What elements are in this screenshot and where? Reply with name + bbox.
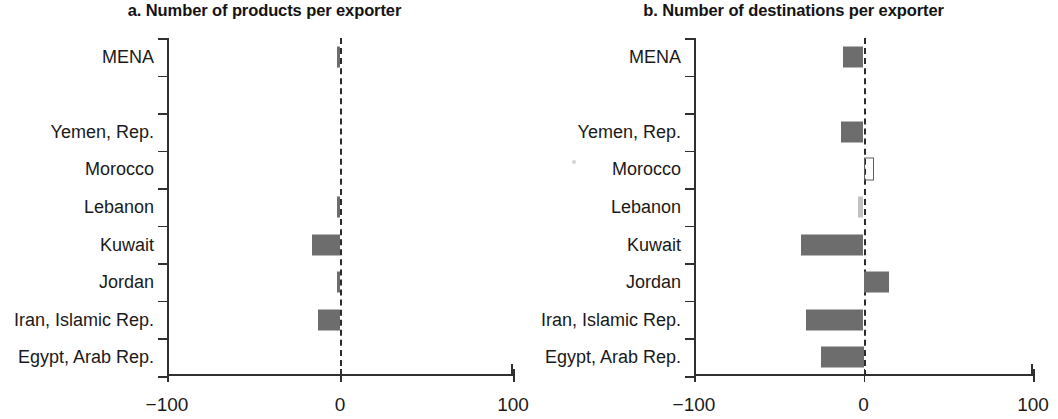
y-axis-tick (685, 38, 694, 40)
y-axis-tick (685, 376, 694, 378)
x-axis-tick (864, 369, 866, 382)
figure-two-panel-bar-charts: a. Number of products per exporter −1000… (0, 0, 1058, 419)
category-label: Morocco (85, 159, 154, 180)
y-axis-tick (158, 38, 167, 40)
x-axis-tick-label: −100 (146, 394, 189, 416)
y-axis-tick (685, 76, 694, 78)
bar (337, 272, 340, 293)
category-label: Egypt, Arab Rep. (545, 347, 681, 368)
y-axis-tick (158, 376, 167, 378)
bar (864, 272, 889, 293)
panel-b-y-axis (694, 38, 696, 376)
bar (337, 46, 340, 67)
x-axis-tick-label: 0 (335, 394, 346, 416)
category-label: Egypt, Arab Rep. (18, 347, 154, 368)
panel-a-y-axis (167, 38, 169, 376)
x-axis-tick-label: 100 (497, 394, 529, 416)
y-axis-tick (685, 338, 694, 340)
bar (337, 197, 340, 218)
x-axis-tick (513, 369, 515, 382)
bar (858, 197, 863, 218)
y-axis-tick (158, 338, 167, 340)
y-axis-tick (685, 263, 694, 265)
bar (801, 234, 864, 255)
bar (312, 234, 340, 255)
panel-a-plot-area: −1000100MENAYemen, Rep.MoroccoLebanonKuw… (167, 38, 513, 376)
y-axis-tick (158, 263, 167, 265)
category-label: Kuwait (627, 234, 681, 255)
bar (841, 121, 863, 142)
y-axis-tick (685, 301, 694, 303)
x-axis-tick (167, 369, 169, 382)
x-axis-tick-label: −100 (673, 394, 716, 416)
y-axis-tick (158, 151, 167, 153)
panel-b-title: b. Number of destinations per exporter (529, 1, 1058, 20)
y-axis-tick (685, 113, 694, 115)
scan-speck (572, 160, 576, 164)
panel-a: a. Number of products per exporter −1000… (0, 0, 529, 419)
category-label: Jordan (99, 272, 154, 293)
x-axis-tick (694, 369, 696, 382)
y-axis-tick (158, 113, 167, 115)
bar (318, 309, 340, 330)
category-label: Yemen, Rep. (51, 121, 154, 142)
bar (864, 158, 874, 181)
category-label: Jordan (626, 272, 681, 293)
bar (843, 46, 863, 67)
category-label: Lebanon (84, 197, 154, 218)
panel-a-zero-line (340, 38, 342, 376)
category-label: Kuwait (100, 234, 154, 255)
category-label: Iran, Islamic Rep. (14, 309, 154, 330)
y-axis-tick (158, 226, 167, 228)
x-axis-tick-label: 0 (858, 394, 869, 416)
panel-b-zero-line (864, 38, 866, 376)
x-axis-tick-label: 100 (1017, 394, 1049, 416)
x-axis-tick (340, 369, 342, 382)
panel-b: b. Number of destinations per exporter −… (529, 0, 1058, 419)
bar (806, 309, 864, 330)
y-axis-tick (158, 76, 167, 78)
y-axis-tick (685, 188, 694, 190)
y-axis-tick (685, 151, 694, 153)
category-label: MENA (102, 46, 154, 67)
y-axis-tick (158, 301, 167, 303)
panel-a-title: a. Number of products per exporter (0, 1, 529, 20)
category-label: Iran, Islamic Rep. (541, 309, 681, 330)
category-label: Lebanon (611, 197, 681, 218)
category-label: Morocco (612, 159, 681, 180)
y-axis-tick (685, 226, 694, 228)
category-label: MENA (629, 46, 681, 67)
panel-b-plot-area: −1000100MENAYemen, Rep.MoroccoLebanonKuw… (694, 38, 1033, 376)
category-label: Yemen, Rep. (578, 121, 681, 142)
x-axis-tick (1033, 369, 1035, 382)
y-axis-tick (158, 188, 167, 190)
bar (821, 347, 863, 368)
